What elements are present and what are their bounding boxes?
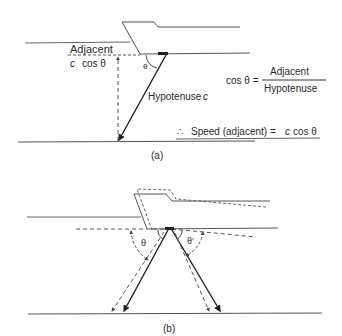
conclusion-cos: cos θ: [293, 126, 317, 137]
angle-theta-label: θ: [141, 238, 146, 248]
conclusion-underline: [176, 138, 320, 139]
hypotenuse-label: Hypotenuse: [148, 91, 202, 102]
reference-dashed-tilted: [172, 229, 256, 237]
figure-a-label: (a): [151, 150, 163, 161]
beam-left-dashed: [112, 232, 164, 311]
angle-theta-prime-label: θ′: [187, 236, 194, 246]
hypotenuse-var: c: [203, 91, 208, 102]
therefore-symbol: ∴: [177, 126, 183, 137]
formula-numerator: Adjacent: [270, 66, 309, 77]
doppler-angle-diagram: Adjacent c cos θ θ Hypotenuse c cos θ = …: [0, 0, 342, 336]
transducer-outline: [122, 22, 240, 54]
transducer-outline-tilted: [137, 189, 266, 230]
transducer-face: [165, 227, 174, 230]
vessel-wall-top: [140, 53, 250, 54]
figure-b-label: (b): [163, 323, 175, 334]
adjacent-label: Adjacent: [70, 43, 113, 55]
transducer-outline-solid: [134, 194, 270, 229]
angle-theta-label: θ: [143, 62, 148, 71]
figure-b: θ θ′ (b): [27, 189, 322, 334]
figure-a: Adjacent c cos θ θ Hypotenuse c cos θ = …: [18, 22, 326, 161]
vessel-wall-bottom: [28, 313, 322, 314]
adjacent-value-c: c: [70, 58, 75, 69]
transducer-face: [158, 52, 168, 55]
vessel-wall-bottom: [18, 141, 255, 142]
conclusion-c: c: [285, 126, 290, 137]
formula-lhs: cos θ =: [226, 75, 259, 86]
conclusion-text: Speed (adjacent) =: [191, 126, 276, 137]
adjacent-value-cos: cos θ: [82, 58, 106, 69]
angle-arc: [146, 55, 157, 68]
angle-arc-right-small: [177, 230, 182, 239]
formula-denominator: Hypotenuse: [264, 83, 318, 94]
